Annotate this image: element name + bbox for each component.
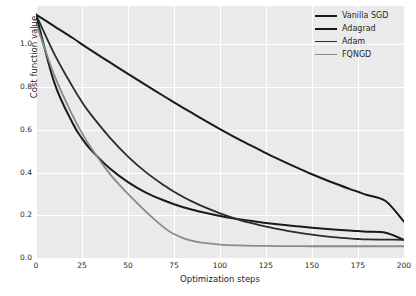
gridline-vertical	[404, 6, 405, 258]
y-tick-label: 0.0	[4, 253, 32, 262]
y-tick-label: 0.4	[4, 168, 32, 177]
x-tick-label: 75	[154, 261, 194, 270]
y-axis-title: Cost function value	[29, 0, 39, 137]
chart-figure: 0255075100125150175200 0.00.20.40.60.81.…	[0, 0, 416, 296]
y-tick-label: 1.0	[4, 39, 32, 48]
legend-item[interactable]: Adam	[315, 35, 388, 48]
legend-item[interactable]: FQNGD	[315, 48, 388, 61]
y-tick-label: 0.2	[4, 210, 32, 219]
x-tick-label: 25	[62, 261, 102, 270]
legend-label: Adagrad	[342, 24, 376, 34]
legend-line-icon	[315, 41, 337, 42]
x-tick-label: 100	[200, 261, 240, 270]
legend-line-icon	[315, 28, 337, 30]
legend-label: Vanilla SGD	[342, 11, 388, 21]
y-tick-label: 0.8	[4, 82, 32, 91]
legend-item[interactable]: Vanilla SGD	[315, 9, 388, 22]
x-tick-label: 150	[292, 261, 332, 270]
legend-line-icon	[315, 15, 337, 17]
x-tick-label: 125	[246, 261, 286, 270]
x-tick-label: 200	[384, 261, 416, 270]
legend-item[interactable]: Adagrad	[315, 22, 388, 35]
legend-line-icon	[315, 54, 337, 55]
legend: Vanilla SGDAdagradAdamFQNGD	[313, 6, 390, 63]
x-axis-title: Optimization steps	[36, 274, 404, 284]
y-tick-label: 0.6	[4, 125, 32, 134]
x-tick-label: 50	[108, 261, 148, 270]
x-tick-label: 175	[338, 261, 378, 270]
legend-label: FQNGD	[342, 50, 371, 60]
legend-label: Adam	[342, 37, 365, 47]
x-tick-label: 0	[16, 261, 56, 270]
gridline-horizontal	[36, 258, 404, 259]
